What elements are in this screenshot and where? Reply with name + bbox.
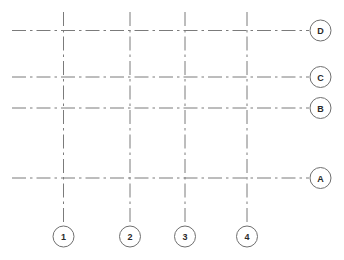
grid-bubble-column-2-text: 2 <box>127 232 132 242</box>
grid-bubble-row-d[interactable]: D <box>310 20 331 41</box>
grid-plan-svg: DCBA1234 <box>0 0 344 260</box>
grid-bubble-row-a[interactable]: A <box>310 168 331 189</box>
grid-bubble-column-4-text: 4 <box>244 232 249 242</box>
grid-bubble-column-4[interactable]: 4 <box>237 226 258 247</box>
grid-bubble-row-b[interactable]: B <box>310 98 331 119</box>
grid-bubble-row-a-text: A <box>317 174 324 184</box>
grid-bubble-row-b-text: B <box>317 104 324 114</box>
grid-bubble-column-1-text: 1 <box>61 232 66 242</box>
grid-drawing-canvas: DCBA1234 <box>0 0 344 260</box>
grid-bubble-row-c-text: C <box>317 73 324 83</box>
drawing-background <box>0 0 344 260</box>
grid-bubble-column-2[interactable]: 2 <box>120 226 141 247</box>
grid-bubble-column-3[interactable]: 3 <box>175 226 196 247</box>
grid-bubble-column-1[interactable]: 1 <box>53 226 74 247</box>
grid-bubble-row-c[interactable]: C <box>310 67 331 88</box>
grid-bubble-column-3-text: 3 <box>182 232 187 242</box>
grid-bubble-row-d-text: D <box>317 26 324 36</box>
